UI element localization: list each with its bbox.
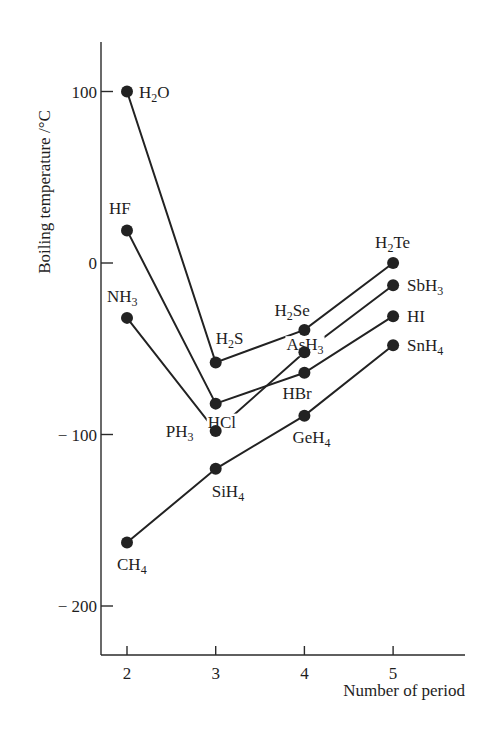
data-point bbox=[210, 425, 222, 437]
y-axis-title: Boiling temperature /°C bbox=[35, 110, 54, 274]
x-tick-label: 4 bbox=[300, 664, 309, 683]
series-line bbox=[127, 345, 393, 542]
y-tick-label: − 100 bbox=[58, 426, 97, 445]
point-label: HF bbox=[109, 199, 131, 218]
data-point bbox=[298, 346, 310, 358]
series-lines bbox=[127, 92, 393, 543]
point-label: HBr bbox=[282, 384, 312, 403]
y-tick-label: − 200 bbox=[58, 597, 97, 616]
x-axis-title: Number of period bbox=[343, 681, 465, 700]
y-tick-label: 0 bbox=[89, 254, 98, 273]
data-point bbox=[298, 410, 310, 422]
data-point bbox=[121, 224, 133, 236]
x-tick-label: 3 bbox=[211, 664, 220, 683]
data-points bbox=[121, 86, 399, 549]
point-label: HI bbox=[407, 307, 425, 326]
data-point bbox=[210, 463, 222, 475]
y-axis-ticks: 1000− 100− 200 bbox=[58, 83, 113, 617]
boiling-point-chart: 1000− 100− 200 2345 Boiling temperature … bbox=[0, 0, 485, 744]
point-labels: H2OH2SH2SeH2TeHFHClHBrHINH3PH3AsH3SbH3CH… bbox=[106, 83, 444, 577]
x-axis-ticks: 2345 bbox=[123, 646, 398, 683]
data-point bbox=[298, 367, 310, 379]
data-point bbox=[121, 537, 133, 549]
data-point bbox=[387, 339, 399, 351]
point-label: H2Te bbox=[375, 233, 410, 255]
data-point bbox=[210, 356, 222, 368]
data-point bbox=[210, 398, 222, 410]
data-point bbox=[121, 86, 133, 98]
data-point bbox=[387, 310, 399, 322]
y-tick-label: 100 bbox=[72, 83, 98, 102]
data-point bbox=[387, 257, 399, 269]
x-tick-label: 2 bbox=[123, 664, 132, 683]
point-label: H2Se bbox=[274, 301, 309, 323]
data-point bbox=[121, 312, 133, 324]
series-line bbox=[127, 92, 393, 363]
data-point bbox=[298, 324, 310, 336]
data-point bbox=[387, 279, 399, 291]
